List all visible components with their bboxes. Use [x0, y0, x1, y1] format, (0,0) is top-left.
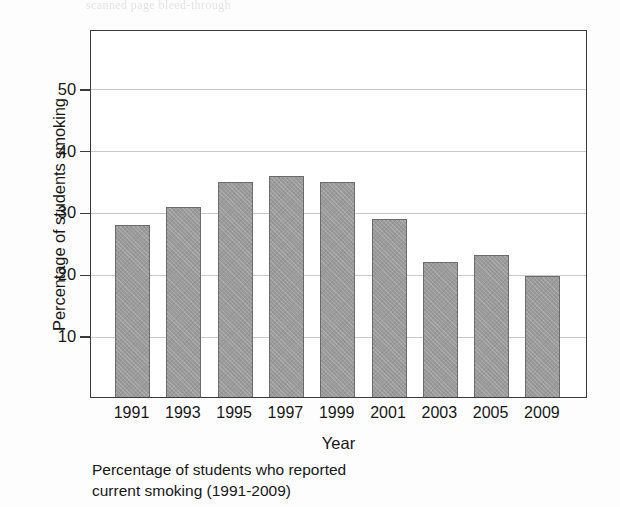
y-tick-mark-30 [80, 213, 91, 215]
ghost-smudge-3 [520, 470, 524, 486]
plot-area: 1020304050 [90, 30, 587, 398]
y-tick-mark-40 [80, 151, 91, 153]
x-tick-label-2009: 2009 [512, 404, 572, 422]
bar-1997 [269, 176, 304, 397]
gridline-50 [91, 89, 586, 90]
x-axis-title: Year [90, 434, 587, 453]
bar-2003 [423, 262, 458, 397]
y-tick-label-50: 50 [58, 80, 76, 99]
y-tick-mark-10 [80, 336, 91, 338]
gridline-40 [91, 151, 586, 152]
bar-chart-figure: Percentage of students smoking 102030405… [0, 0, 620, 507]
caption-line-2: current smoking (1991-2009) [92, 480, 512, 501]
bar-2001 [372, 219, 407, 397]
y-tick-label-40: 40 [58, 142, 76, 161]
caption-line-1: Percentage of students who reported [92, 459, 512, 480]
bar-1995 [218, 182, 253, 397]
y-tick-label-10: 10 [58, 327, 76, 346]
bar-1993 [166, 207, 201, 397]
y-tick-mark-50 [80, 89, 91, 91]
bar-2005 [474, 255, 509, 397]
y-tick-label-30: 30 [58, 204, 76, 223]
y-tick-label-20: 20 [58, 265, 76, 284]
figure-caption: Percentage of students who reported curr… [92, 459, 512, 501]
bar-2009 [525, 276, 560, 397]
bar-1999 [320, 182, 355, 397]
bar-1991 [115, 225, 150, 397]
y-tick-mark-20 [80, 275, 91, 277]
